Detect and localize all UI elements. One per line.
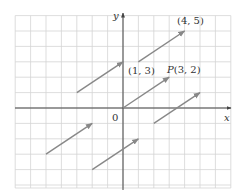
point-label-1-3: (1, 3) [128,65,155,76]
labels: y x 0 (4, 5) (1, 3) P(3, 2) [112,10,230,123]
vector-diagram: y x 0 (4, 5) (1, 3) P(3, 2) [0,0,243,194]
origin-label: 0 [112,112,118,123]
point-label-P: P(3, 2) [166,64,201,75]
point-P-coords: (3, 2) [174,64,201,75]
axes [15,13,231,190]
x-axis-label: x [224,112,230,123]
point-label-4-5: (4, 5) [177,15,204,26]
y-axis-label: y [112,10,119,21]
